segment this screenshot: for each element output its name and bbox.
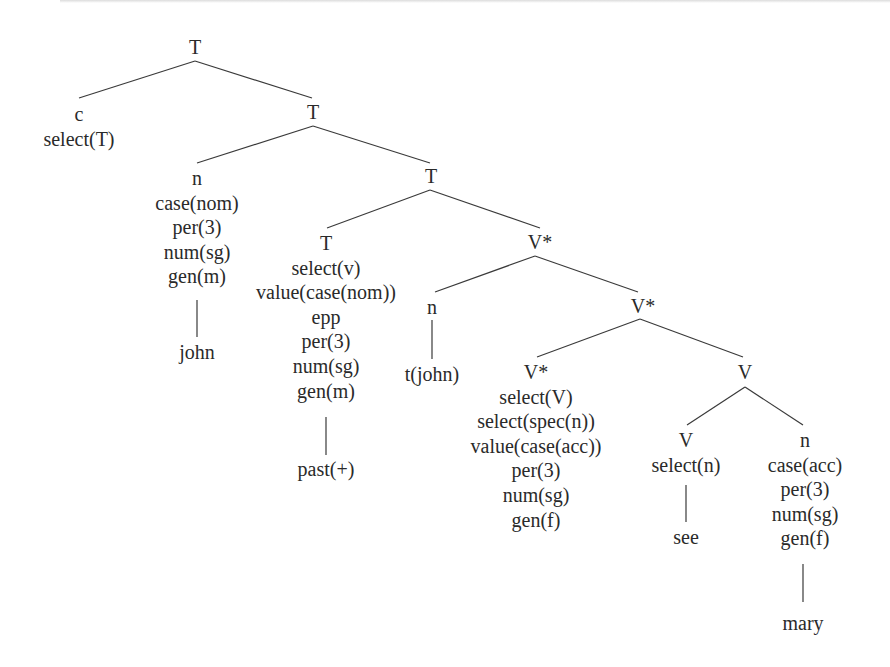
node-label: n (427, 295, 437, 320)
node-n-subject: n case(nom) per(3) num(sg) gen(m) (155, 166, 238, 289)
node-label: T (189, 35, 201, 60)
node-feature: select(T) (43, 127, 114, 152)
node-label: T (307, 100, 319, 125)
node-label: n (155, 166, 238, 191)
leaf-john: john (179, 340, 215, 365)
edge-vs2-vs3 (537, 319, 640, 357)
edge-t3-vs1 (430, 190, 540, 228)
node-label: V* (528, 230, 552, 255)
leaf-label: t(john) (405, 362, 459, 387)
edge-t2-n1 (197, 126, 313, 163)
node-vstar-2: V* (631, 294, 655, 319)
node-feature: per(3) (155, 215, 238, 240)
node-feature: num(sg) (155, 240, 238, 265)
node-feature: case(nom) (155, 191, 238, 216)
edge-v1-v2 (687, 387, 745, 425)
node-vstar-head: V* select(V) select(spec(n)) value(case(… (471, 360, 602, 532)
node-feature: select(n) (652, 453, 721, 478)
edge-vs2-v1 (640, 319, 743, 357)
edge-vs1-vs2 (535, 256, 638, 292)
node-feature: select(V) (471, 385, 602, 410)
node-feature: num(sg) (768, 502, 842, 527)
leaf-label: past(+) (298, 457, 355, 482)
node-label: V (738, 360, 752, 385)
edge-t1-t2 (195, 61, 312, 98)
node-label: T (425, 164, 437, 189)
node-feature: num(sg) (256, 354, 396, 379)
node-label: n (768, 428, 842, 453)
node-label: V* (471, 360, 602, 385)
leaf-label: mary (782, 611, 823, 636)
node-label: T (256, 231, 396, 256)
leaf-past: past(+) (298, 457, 355, 482)
node-feature: per(3) (768, 477, 842, 502)
node-v-head: V select(n) (652, 428, 721, 477)
node-feature: select(spec(n)) (471, 409, 602, 434)
node-n-object: n case(acc) per(3) num(sg) gen(f) (768, 428, 842, 551)
node-vstar-1: V* (528, 230, 552, 255)
node-n-trace: n (427, 295, 437, 320)
node-feature: value(case(acc)) (471, 434, 602, 459)
node-feature: case(acc) (768, 453, 842, 478)
leaf-trace-john: t(john) (405, 362, 459, 387)
node-t-head: T select(v) value(case(nom)) epp per(3) … (256, 231, 396, 403)
edge-v1-n3 (745, 387, 803, 425)
node-feature: num(sg) (471, 483, 602, 508)
leaf-label: see (673, 525, 699, 550)
node-label: V (652, 428, 721, 453)
edge-vs1-n2 (435, 256, 535, 292)
node-feature: gen(f) (768, 526, 842, 551)
leaf-mary: mary (782, 611, 823, 636)
leaf-label: john (179, 340, 215, 365)
node-v-phrase: V (738, 360, 752, 385)
leaf-see: see (673, 525, 699, 550)
node-feature: per(3) (256, 329, 396, 354)
node-feature: per(3) (471, 458, 602, 483)
node-feature: gen(f) (471, 508, 602, 533)
node-feature: value(case(nom)) (256, 280, 396, 305)
node-t-3: T (425, 164, 437, 189)
node-t-root: T (189, 35, 201, 60)
node-feature: select(v) (256, 256, 396, 281)
node-c: c select(T) (43, 102, 114, 151)
node-feature: epp (256, 305, 396, 330)
edge-t2-t3 (313, 126, 430, 163)
node-label: V* (631, 294, 655, 319)
node-t-2: T (307, 100, 319, 125)
node-feature: gen(m) (256, 379, 396, 404)
edge-t3-t4 (327, 190, 430, 228)
edge-t1-c1 (79, 61, 195, 98)
node-feature: gen(m) (155, 264, 238, 289)
node-label: c (43, 102, 114, 127)
